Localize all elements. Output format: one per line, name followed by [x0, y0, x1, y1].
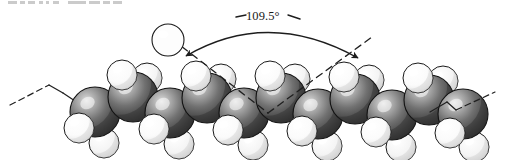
- angle-label-tick-left: [236, 15, 246, 17]
- molecule-canvas: [0, 0, 506, 160]
- angle-label-tick-right: [288, 15, 300, 19]
- callout-hydrogen-atom: [152, 24, 184, 56]
- callout-hydrogen-sphere: [152, 24, 184, 56]
- chain-extension-left: [10, 85, 78, 105]
- callout-hydrogen-highlight: [158, 30, 168, 38]
- bond-angle-label: 109.5°: [246, 9, 280, 24]
- chain-extension-left-dashed: [10, 85, 49, 105]
- angle-arc: [186, 32, 358, 58]
- chain-extension-left-solid-a: [49, 85, 63, 93]
- molecular-model-figure: 109.5°: [0, 0, 506, 160]
